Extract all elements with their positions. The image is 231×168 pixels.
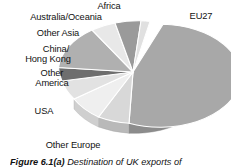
figure-caption-text: Destination of UK exports of: [67, 157, 181, 167]
label-other-america-line1: Other: [21, 68, 83, 78]
figure-caption-label: Figure 6.1(a): [10, 157, 65, 167]
figure-caption: Figure 6.1(a) Destination of UK exports …: [10, 157, 231, 168]
label-china-hong-kong-line1: China/: [21, 44, 91, 54]
figure-container: Africa Australia/Oceania Other Asia Chin…: [0, 0, 231, 168]
label-other-asia: Other Asia: [21, 28, 95, 38]
label-africa: Africa: [86, 1, 132, 11]
label-eu27: EU27: [180, 11, 222, 21]
label-australia-oceania: Australia/Oceania: [16, 12, 116, 22]
label-other-america-line2: America: [14, 78, 90, 88]
label-usa: USA: [22, 106, 66, 116]
label-other-europe: Other Europe: [30, 140, 116, 150]
label-china-hong-kong-line2: Hong Kong: [5, 54, 91, 64]
